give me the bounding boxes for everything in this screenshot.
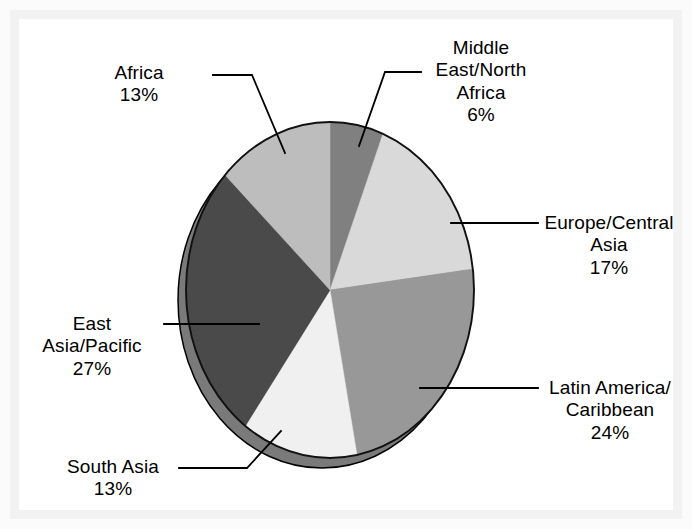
slice-label-europe-central-asia: Europe/Central Asia 17% — [543, 212, 675, 279]
slice-label-south-asia: South Asia 13% — [49, 456, 177, 501]
slice-label-middle-east-value: 6% — [401, 104, 561, 126]
slice-label-middle-east-line3: Africa — [401, 82, 561, 104]
plot-area: Middle East/North Africa 6% Africa 13% E… — [19, 19, 673, 510]
pie-slices — [186, 122, 474, 458]
slice-label-africa: Africa 13% — [79, 62, 199, 107]
figure-canvas: Middle East/North Africa 6% Africa 13% E… — [0, 0, 692, 529]
slice-label-africa-value: 13% — [79, 84, 199, 106]
slice-label-east-asia-line2: Asia/Pacific — [23, 335, 161, 357]
slice-label-latin-america-line2: Caribbean — [543, 399, 677, 421]
slice-label-europe-value: 17% — [543, 257, 675, 279]
slice-label-latin-america: Latin America/ Caribbean 24% — [543, 377, 677, 444]
slice-label-middle-east-line1: Middle — [401, 37, 561, 59]
slice-label-middle-east-line2: East/North — [401, 59, 561, 81]
slice-label-europe-line2: Asia — [543, 234, 675, 256]
slice-label-latin-america-value: 24% — [543, 422, 677, 444]
slice-label-south-asia-line1: South Asia — [49, 456, 177, 478]
slice-label-east-asia-pacific: East Asia/Pacific 27% — [23, 313, 161, 380]
slice-label-latin-america-line1: Latin America/ — [543, 377, 677, 399]
slice-label-east-asia-line1: East — [23, 313, 161, 335]
slice-label-europe-line1: Europe/Central — [543, 212, 675, 234]
slice-label-south-asia-value: 13% — [49, 478, 177, 500]
slice-label-east-asia-value: 27% — [23, 358, 161, 380]
slice-label-middle-east: Middle East/North Africa 6% — [401, 37, 561, 127]
slice-label-africa-line1: Africa — [79, 62, 199, 84]
